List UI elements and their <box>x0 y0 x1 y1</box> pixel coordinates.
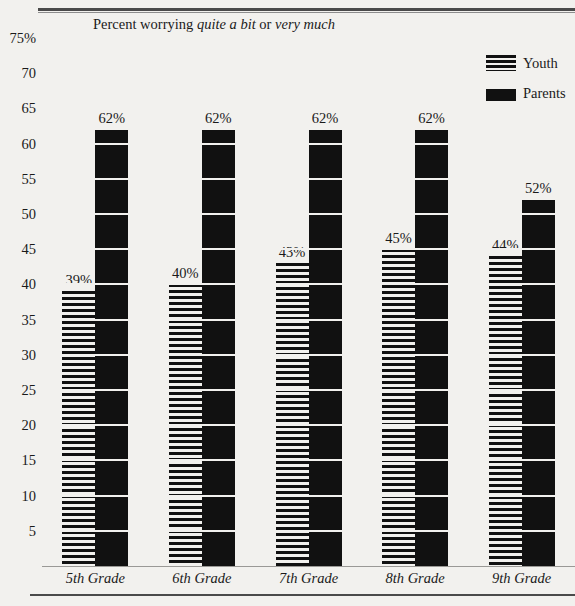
chart-title-part-3: very much <box>275 16 335 32</box>
bar-value-label-parents-1: 62% <box>99 111 126 126</box>
x-axis-tick-2: 6th Grade <box>172 570 231 587</box>
top-border-rule-thin <box>38 12 575 13</box>
y-axis-tick-5: 5 <box>29 524 36 539</box>
y-axis-tick-70: 70 <box>22 66 37 81</box>
bar-value-label-youth-4: 45% <box>385 231 412 246</box>
bar-group-1: 39%62% <box>62 38 128 566</box>
bar-value-label-youth-3: 43% <box>279 245 306 260</box>
bar-youth-4[interactable]: 45% <box>382 249 415 566</box>
y-axis-tick-10: 10 <box>22 488 37 503</box>
y-axis-tick-25: 25 <box>22 383 37 398</box>
y-axis-tick-35: 35 <box>22 312 37 327</box>
y-axis-tick-20: 20 <box>22 418 37 433</box>
y-axis-tick-55: 55 <box>22 172 37 187</box>
bar-value-label-youth-5: 44% <box>492 238 519 253</box>
bar-value-label-parents-3: 62% <box>312 111 339 126</box>
chart-title: Percent worrying quite a bit or very muc… <box>93 16 335 33</box>
y-axis-tick-60: 60 <box>22 136 37 151</box>
chart-title-part-2: or <box>256 16 275 32</box>
x-axis-tick-4: 8th Grade <box>385 570 444 587</box>
bar-group-3: 43%62% <box>276 38 342 566</box>
y-axis-tick-50: 50 <box>22 207 37 222</box>
x-axis-tick-1: 5th Grade <box>66 570 125 587</box>
bar-parents-4[interactable]: 62% <box>415 130 448 566</box>
bar-value-label-parents-5: 52% <box>525 181 552 196</box>
bar-group-4: 45%62% <box>382 38 448 566</box>
bar-youth-5[interactable]: 44% <box>489 256 522 566</box>
bar-group-5: 44%52% <box>489 38 555 566</box>
plot-area: 75%706560555045403530252015105 39%62%40%… <box>42 38 575 566</box>
bar-value-label-parents-4: 62% <box>418 111 445 126</box>
chart-title-part-0: Percent worrying <box>93 16 197 32</box>
y-axis-tick-40: 40 <box>22 277 37 292</box>
bar-value-label-youth-2: 40% <box>172 266 199 281</box>
bar-parents-5[interactable]: 52% <box>522 200 555 566</box>
chart-title-part-1: quite a bit <box>197 16 256 32</box>
x-axis: 5th Grade6th Grade7th Grade8th Grade9th … <box>42 570 575 592</box>
y-axis-tick-65: 65 <box>22 101 37 116</box>
bar-parents-2[interactable]: 62% <box>202 130 235 566</box>
x-axis-baseline <box>42 566 575 567</box>
bar-youth-1[interactable]: 39% <box>62 291 95 566</box>
x-axis-tick-5: 9th Grade <box>492 570 551 587</box>
y-axis-tick-15: 15 <box>22 453 37 468</box>
x-axis-tick-3: 7th Grade <box>279 570 338 587</box>
top-border-rule <box>38 8 575 11</box>
bar-parents-3[interactable]: 62% <box>309 130 342 566</box>
bar-group-2: 40%62% <box>169 38 235 566</box>
y-axis-tick-45: 45 <box>22 242 37 257</box>
bar-youth-2[interactable]: 40% <box>169 284 202 566</box>
y-axis-tick-30: 30 <box>22 348 37 363</box>
bar-youth-3[interactable]: 43% <box>276 263 309 566</box>
bottom-border-rule <box>30 594 575 596</box>
bar-value-label-parents-2: 62% <box>205 111 232 126</box>
y-axis-tick-75: 75% <box>9 31 36 46</box>
bar-parents-1[interactable]: 62% <box>95 130 128 566</box>
bar-value-label-youth-1: 39% <box>66 273 93 288</box>
